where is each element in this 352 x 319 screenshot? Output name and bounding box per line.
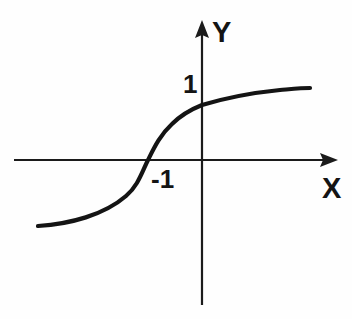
y-axis-label: Y [212, 18, 231, 47]
tick-label-negative-one: -1 [151, 166, 174, 192]
function-curve [38, 88, 310, 226]
x-axis-label: X [322, 174, 341, 203]
figure-canvas: Y X 1 -1 [0, 0, 352, 319]
tick-label-one: 1 [183, 71, 197, 97]
graph-svg [0, 0, 352, 319]
